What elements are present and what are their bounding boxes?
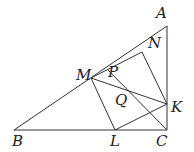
geometry-figure xyxy=(0,0,194,152)
label-p: P xyxy=(108,65,118,80)
label-n: N xyxy=(148,36,161,51)
label-c: C xyxy=(156,134,167,149)
label-k: K xyxy=(171,100,182,115)
label-l: L xyxy=(110,134,120,149)
label-b: B xyxy=(12,134,23,149)
label-m: M xyxy=(76,68,91,83)
label-q: Q xyxy=(115,93,127,108)
label-a: A xyxy=(156,6,167,21)
